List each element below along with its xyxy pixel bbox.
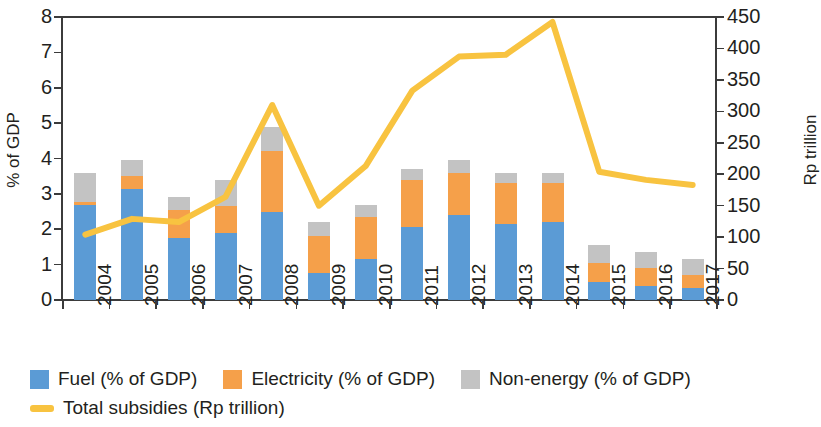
bar-segment[interactable] bbox=[448, 160, 470, 172]
bar-segment[interactable] bbox=[682, 259, 704, 275]
bar-stack[interactable] bbox=[355, 17, 377, 300]
x-axis-tick-label: 2004 bbox=[94, 236, 116, 306]
y-axis-left-tick-label: 1 bbox=[6, 254, 52, 274]
y-axis-left-tick bbox=[54, 16, 61, 18]
legend-line-swatch-icon bbox=[30, 405, 54, 412]
x-axis-tick-label: 2008 bbox=[281, 236, 303, 306]
legend-row-primary: Fuel (% of GDP)Electricity (% of GDP)Non… bbox=[30, 368, 800, 390]
y-axis-left-tick-label: 5 bbox=[6, 112, 52, 132]
legend-item[interactable]: Electricity (% of GDP) bbox=[223, 368, 435, 390]
bar-segment[interactable] bbox=[215, 233, 237, 300]
y-axis-left-tick-label: 0 bbox=[6, 289, 52, 309]
bar-stack[interactable] bbox=[261, 17, 283, 300]
x-axis-tick bbox=[249, 301, 251, 309]
bar-segment[interactable] bbox=[215, 206, 237, 233]
legend-item[interactable]: Fuel (% of GDP) bbox=[30, 368, 197, 390]
y-axis-right-tick bbox=[717, 16, 724, 18]
bar-segment[interactable] bbox=[261, 127, 283, 152]
bar-segment[interactable] bbox=[308, 222, 330, 236]
bar-segment[interactable] bbox=[308, 273, 330, 300]
y-axis-right-tick-label: 400 bbox=[727, 37, 787, 57]
bar-stack[interactable] bbox=[308, 17, 330, 300]
bar-segment[interactable] bbox=[261, 212, 283, 300]
bar-segment[interactable] bbox=[308, 236, 330, 273]
bar-stack[interactable] bbox=[121, 17, 143, 300]
legend-item[interactable]: Total subsidies (Rp trillion) bbox=[30, 397, 285, 419]
bar-segment[interactable] bbox=[682, 288, 704, 300]
x-axis-tick bbox=[716, 301, 718, 309]
y-axis-left-tick bbox=[54, 87, 61, 89]
bar-stack[interactable] bbox=[495, 17, 517, 300]
bar-segment[interactable] bbox=[542, 173, 564, 184]
bar-segment[interactable] bbox=[495, 224, 517, 300]
bar-segment[interactable] bbox=[682, 275, 704, 289]
bar-segment[interactable] bbox=[588, 245, 610, 263]
bar-segment[interactable] bbox=[495, 183, 517, 224]
bar-segment[interactable] bbox=[215, 180, 237, 207]
x-axis-tick-label: 2012 bbox=[468, 236, 490, 306]
bar-segment[interactable] bbox=[495, 173, 517, 184]
bar-segment[interactable] bbox=[74, 202, 96, 205]
y-axis-left-tick bbox=[54, 158, 61, 160]
bar-segment[interactable] bbox=[588, 282, 610, 300]
bar-segment[interactable] bbox=[121, 189, 143, 300]
y-axis-left-tick bbox=[54, 122, 61, 124]
legend-color-swatch-icon bbox=[461, 370, 480, 389]
bar-stack[interactable] bbox=[542, 17, 564, 300]
bar-segment[interactable] bbox=[355, 217, 377, 259]
x-axis-tick bbox=[62, 301, 64, 309]
bar-segment[interactable] bbox=[401, 180, 423, 228]
bar-segment[interactable] bbox=[168, 210, 190, 238]
bar-segment[interactable] bbox=[635, 268, 657, 286]
bar-segment[interactable] bbox=[168, 197, 190, 209]
bar-segment[interactable] bbox=[542, 183, 564, 222]
bar-stack[interactable] bbox=[635, 17, 657, 300]
y-axis-right-tick bbox=[717, 173, 724, 175]
bar-segment[interactable] bbox=[635, 252, 657, 268]
x-axis-tick-label: 2014 bbox=[562, 236, 584, 306]
x-axis-tick bbox=[342, 301, 344, 309]
y-axis-left-tick-label: 4 bbox=[6, 148, 52, 168]
y-axis-left-tick bbox=[54, 193, 61, 195]
bar-segment[interactable] bbox=[168, 238, 190, 300]
bar-stack[interactable] bbox=[588, 17, 610, 300]
x-axis-tick bbox=[389, 301, 391, 309]
y-axis-left-tick-label: 2 bbox=[6, 218, 52, 238]
legend-item[interactable]: Non-energy (% of GDP) bbox=[461, 368, 691, 390]
x-axis-tick-label: 2005 bbox=[141, 236, 163, 306]
y-axis-right-tick bbox=[717, 111, 724, 113]
bar-stack[interactable] bbox=[215, 17, 237, 300]
x-axis-tick-label: 2011 bbox=[421, 236, 443, 306]
bar-segment[interactable] bbox=[121, 160, 143, 176]
y-axis-right-tick bbox=[717, 48, 724, 50]
bar-segment[interactable] bbox=[355, 259, 377, 300]
x-axis-tick bbox=[155, 301, 157, 309]
y-axis-right-tick-label: 50 bbox=[727, 258, 787, 278]
y-axis-right-tick-label: 150 bbox=[727, 195, 787, 215]
bar-stack[interactable] bbox=[448, 17, 470, 300]
bar-segment[interactable] bbox=[588, 263, 610, 282]
bar-stack[interactable] bbox=[168, 17, 190, 300]
x-axis-tick-label: 2010 bbox=[375, 236, 397, 306]
bar-segment[interactable] bbox=[448, 173, 470, 215]
y-axis-right-title: Rp trillion bbox=[801, 85, 821, 215]
y-axis-left-tick bbox=[54, 299, 61, 301]
bar-segment[interactable] bbox=[448, 215, 470, 300]
x-axis-tick bbox=[109, 301, 111, 309]
bar-segment[interactable] bbox=[542, 222, 564, 300]
bar-segment[interactable] bbox=[121, 176, 143, 188]
bar-stack[interactable] bbox=[682, 17, 704, 300]
bar-segment[interactable] bbox=[261, 151, 283, 211]
y-axis-left-tick bbox=[54, 264, 61, 266]
bar-segment[interactable] bbox=[355, 205, 377, 217]
x-axis-tick bbox=[623, 301, 625, 309]
legend-item-label: Electricity (% of GDP) bbox=[251, 368, 435, 390]
bar-segment[interactable] bbox=[635, 286, 657, 300]
bar-segment[interactable] bbox=[74, 173, 96, 202]
y-axis-right-tick-label: 100 bbox=[727, 226, 787, 246]
y-axis-left-tick-label: 8 bbox=[6, 6, 52, 26]
y-axis-right-tick-label: 0 bbox=[727, 289, 787, 309]
x-axis-tick-label: 2015 bbox=[608, 236, 630, 306]
bar-segment[interactable] bbox=[401, 169, 423, 180]
